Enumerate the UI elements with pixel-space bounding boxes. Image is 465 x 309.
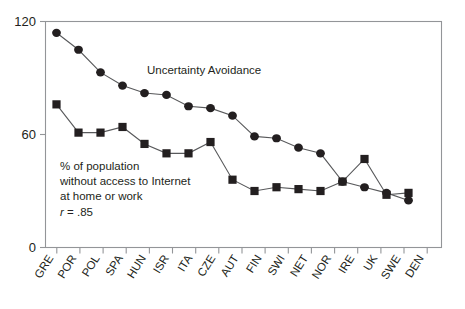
data-point [360,183,369,191]
internet-access-annotation: % of population without access to Intern… [59,160,191,218]
data-point [294,144,303,152]
y-tick-label-120: 120 [14,14,36,29]
x-axis-labels: GRE POR POL SPA HUN ISR ITA CZE AUT FIN … [32,252,426,281]
data-point [140,89,149,97]
data-point [404,196,413,204]
data-point [52,100,60,108]
x-tick-label-cze: CZE [195,252,218,278]
annotation-line-3: at home or work [60,190,143,202]
x-tick-label-fin: FIN [244,253,264,275]
chart-canvas: 120 60 0 GRE POR POL S [0,0,465,309]
x-tick-label-hun: HUN [125,253,148,280]
data-point [140,140,148,148]
x-tick-label-spa: SPA [103,252,125,277]
data-point [316,187,324,195]
data-point [382,191,390,199]
data-point [118,123,126,131]
x-tick-label-swe: SWE [379,252,403,281]
data-point [316,149,325,157]
x-tick-label-aut: AUT [218,253,240,279]
data-point [74,46,83,54]
plot-frame [46,22,442,248]
data-point [228,112,237,120]
annotation-line-1: % of population [60,160,139,172]
x-tick-label-isr: ISR [151,253,171,276]
annotation-correlation: r = .85 [60,206,93,218]
annotation-line-2: without access to Internet [59,175,191,187]
uncertainty-avoidance-label: Uncertainty Avoidance [147,64,261,76]
x-tick-label-ire: IRE [336,252,357,275]
x-tick-label-ita: ITA [175,252,194,273]
data-point [360,155,368,163]
x-tick-label-gre: GRE [32,252,56,280]
data-point [272,183,280,191]
data-point [294,185,302,193]
x-tick-label-den: DEN [403,253,426,280]
data-point [162,91,171,99]
data-point [184,149,192,157]
data-point [52,29,61,37]
y-axis-ticks [40,22,46,248]
data-point [162,149,170,157]
x-tick-label-net: NET [288,253,310,279]
data-point [74,129,82,137]
data-point [96,129,104,137]
data-point [250,132,259,140]
x-tick-label-swi: SWI [265,253,287,278]
x-tick-label-uk: UK [361,252,380,272]
data-point [206,104,215,112]
y-tick-label-0: 0 [29,240,36,255]
x-tick-label-pol: POL [79,252,102,278]
chart-figure: 120 60 0 GRE POR POL S [0,0,465,309]
x-axis-ticks [57,248,427,254]
data-point [272,134,281,142]
x-tick-label-nor: NOR [310,253,334,281]
y-tick-label-60: 60 [22,127,36,142]
data-point [338,177,346,185]
data-point [228,176,236,184]
correlation-value: = .85 [64,206,93,218]
x-tick-label-por: POR [55,253,78,280]
data-point [250,187,258,195]
data-point [184,102,193,110]
data-point [118,81,127,89]
data-point [206,138,214,146]
data-point [404,189,412,197]
data-point [96,68,105,76]
